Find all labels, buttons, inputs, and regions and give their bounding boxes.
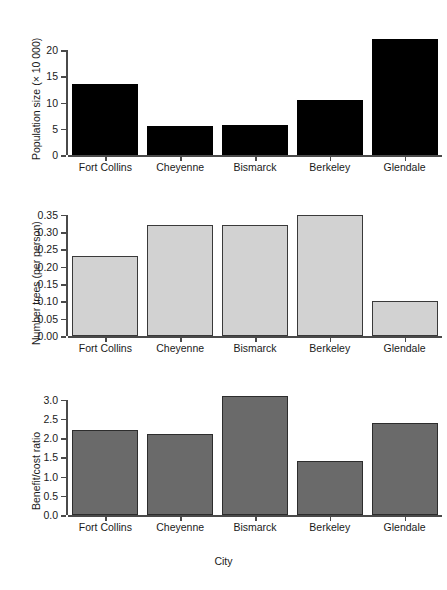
y-tick-label-trees-5: 0.25 [20,244,58,255]
bar-trees-bismarck [222,225,288,336]
y-tick-label-benefit-cost-5: 2.5 [20,414,58,425]
bar-benefit-cost-berkeley [297,461,363,515]
plot-area-population: 05101520Fort CollinsCheyenneBismarckBerk… [0,0,447,190]
y-tick-label-benefit-cost-1: 0.5 [20,491,58,502]
bar-trees-cheyenne [147,225,213,336]
plot-area-benefit-cost: 0.00.51.01.52.02.53.0Fort CollinsCheyenn… [0,370,447,590]
y-tick-label-population-0: 0 [20,150,58,161]
bar-benefit-cost-fort-collins [72,430,138,515]
y-tick-label-trees-0: 0.00 [20,331,58,342]
y-axis-spine-population [66,50,68,155]
chart-panel-benefit-cost: Benefit/cost ratio City 0.00.51.01.52.02… [0,370,447,590]
x-tick-label-population-0: Fort Collins [68,162,143,173]
y-tick-label-trees-6: 0.30 [20,227,58,238]
x-tick-label-trees-1: Cheyenne [143,343,218,354]
x-tick-label-trees-3: Berkeley [292,343,367,354]
y-tick-label-population-2: 10 [20,98,58,109]
y-tick-label-population-4: 20 [20,45,58,56]
y-tick-trees-2 [61,301,66,303]
y-axis-spine-trees [66,215,68,336]
bar-trees-berkeley [297,215,363,336]
y-tick-population-3 [61,76,66,78]
bar-benefit-cost-glendale [372,423,438,515]
y-axis-spine-benefit-cost [66,400,68,515]
y-tick-population-1 [61,129,66,131]
x-tick-label-benefit-cost-2: Bismarck [218,522,293,533]
x-tick-label-trees-0: Fort Collins [68,343,143,354]
bar-population-glendale [372,39,438,155]
bar-population-bismarck [222,125,288,155]
y-tick-population-0 [61,155,66,157]
x-tick-label-population-2: Bismarck [218,162,293,173]
y-tick-trees-0 [61,336,66,338]
y-tick-benefit-cost-6 [61,400,66,402]
y-tick-trees-5 [61,249,66,251]
bar-trees-fort-collins [72,256,138,336]
y-tick-label-trees-1: 0.05 [20,314,58,325]
y-tick-benefit-cost-3 [61,457,66,459]
y-tick-label-benefit-cost-4: 2.0 [20,433,58,444]
y-tick-benefit-cost-0 [61,515,66,517]
x-tick-label-population-1: Cheyenne [143,162,218,173]
y-tick-benefit-cost-5 [61,419,66,421]
y-tick-trees-3 [61,284,66,286]
bar-benefit-cost-cheyenne [147,434,213,515]
chart-panel-population: Population size (× 10 000) 05101520Fort … [0,0,447,190]
y-tick-label-trees-7: 0.35 [20,210,58,221]
y-tick-label-benefit-cost-3: 1.5 [20,452,58,463]
chart-panel-trees: Number trees (per person) 0.000.050.100.… [0,190,447,370]
x-tick-label-benefit-cost-3: Berkeley [292,522,367,533]
x-tick-label-benefit-cost-1: Cheyenne [143,522,218,533]
figure-canvas: Population size (× 10 000) 05101520Fort … [0,0,447,590]
bar-population-fort-collins [72,84,138,155]
x-tick-label-benefit-cost-4: Glendale [367,522,442,533]
y-tick-trees-7 [61,215,66,217]
y-tick-trees-6 [61,232,66,234]
x-tick-label-benefit-cost-0: Fort Collins [68,522,143,533]
y-tick-label-benefit-cost-0: 0.0 [20,510,58,521]
y-tick-label-trees-4: 0.20 [20,262,58,273]
y-tick-trees-1 [61,319,66,321]
y-tick-label-population-3: 15 [20,71,58,82]
y-tick-benefit-cost-2 [61,477,66,479]
bar-benefit-cost-bismarck [222,396,288,515]
y-tick-label-benefit-cost-6: 3.0 [20,395,58,406]
x-tick-label-trees-4: Glendale [367,343,442,354]
y-tick-label-trees-3: 0.15 [20,279,58,290]
bar-population-berkeley [297,100,363,155]
x-tick-label-population-4: Glendale [367,162,442,173]
y-tick-benefit-cost-1 [61,496,66,498]
y-tick-population-2 [61,103,66,105]
bar-trees-glendale [372,301,438,336]
y-tick-label-benefit-cost-2: 1.0 [20,472,58,483]
y-tick-label-population-1: 5 [20,124,58,135]
y-tick-population-4 [61,50,66,52]
x-tick-label-population-3: Berkeley [292,162,367,173]
y-tick-benefit-cost-4 [61,438,66,440]
plot-area-trees: 0.000.050.100.150.200.250.300.35Fort Col… [0,190,447,370]
x-tick-label-trees-2: Bismarck [218,343,293,354]
y-tick-trees-4 [61,267,66,269]
bar-population-cheyenne [147,126,213,155]
y-tick-label-trees-2: 0.10 [20,296,58,307]
